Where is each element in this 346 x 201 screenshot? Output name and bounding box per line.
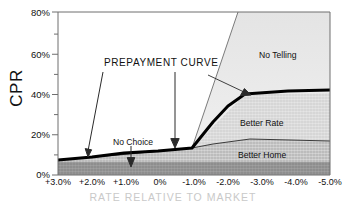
prepayment-curve-chart: CPR 80% 60% 40% 20% 0% +3.0% +2.0% +1.0%… — [0, 0, 346, 201]
x-tick-label: +1.0% — [109, 177, 143, 187]
x-tick-label: -2.0% — [211, 177, 245, 187]
y-axis-ticks — [52, 12, 58, 175]
x-tick-label: 0% — [143, 177, 177, 187]
region-label-no-telling: No Telling — [259, 50, 297, 60]
x-axis-title: RATE RELATIVE TO MARKET — [0, 191, 346, 201]
x-tick-label: +3.0% — [41, 177, 75, 187]
chart-plot-area — [0, 0, 346, 201]
x-tick-label: -4.0% — [279, 177, 313, 187]
region-label-better-rate: Better Rate — [240, 118, 283, 128]
region-no-choice — [58, 162, 330, 175]
x-tick-label: -1.0% — [177, 177, 211, 187]
y-tick-label: 60% — [16, 49, 50, 60]
x-tick-label: +2.0% — [75, 177, 109, 187]
prepayment-curve-annotation: PREPAYMENT CURVE — [104, 57, 218, 68]
y-axis-title: CPR — [7, 58, 27, 118]
region-label-better-home: Better Home — [238, 150, 286, 160]
y-tick-label: 40% — [16, 89, 50, 100]
y-tick-label: 20% — [16, 129, 50, 140]
y-tick-label: 80% — [16, 7, 50, 18]
x-tick-label: -5.0% — [313, 177, 346, 187]
x-tick-label: -3.0% — [245, 177, 279, 187]
region-label-no-choice: No Choice — [113, 137, 153, 147]
